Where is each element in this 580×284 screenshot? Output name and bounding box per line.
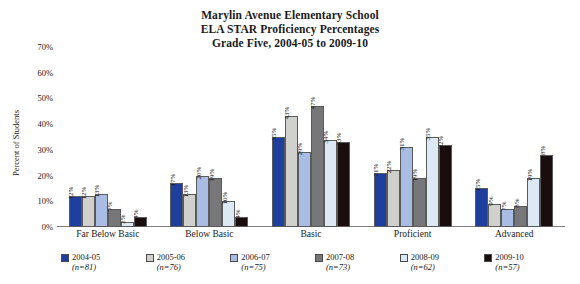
- legend-swatch-icon: [484, 254, 492, 262]
- x-axis-category-label: Basic: [260, 229, 362, 239]
- bar-slot: 13%: [95, 47, 108, 227]
- bar[interactable]: [426, 137, 439, 227]
- bar[interactable]: [527, 178, 540, 227]
- legend-series-name: 2006-07: [241, 252, 269, 262]
- bar-slot: 9%: [488, 47, 501, 227]
- bar-slot: 7%: [108, 47, 121, 227]
- y-axis-tick-label: 60%: [37, 68, 53, 78]
- bar[interactable]: [540, 155, 553, 227]
- bar[interactable]: [285, 116, 298, 227]
- bar-value-label: 22%: [385, 161, 393, 174]
- bar[interactable]: [514, 206, 527, 227]
- bar[interactable]: [374, 173, 387, 227]
- bar-slot: 35%: [272, 47, 285, 227]
- legend-series-count: (n=81): [72, 262, 100, 272]
- bar-slot: 8%: [514, 47, 527, 227]
- legend-swatch-icon: [400, 254, 408, 262]
- bar[interactable]: [69, 196, 82, 227]
- x-axis-category-label: Below Basic: [159, 229, 261, 239]
- bar-slot: 32%: [439, 47, 452, 227]
- y-axis-tick-label: 30%: [37, 145, 53, 155]
- bar[interactable]: [400, 147, 413, 227]
- legend-series-name: 2004-05: [72, 252, 100, 262]
- bar-slot: 12%: [82, 47, 95, 227]
- legend-series-count: (n=62): [411, 262, 439, 272]
- legend-label: 2006-07(n=75): [241, 252, 269, 272]
- x-axis-category-label: Far Below Basic: [57, 229, 159, 239]
- bar-value-label: 7%: [500, 201, 508, 210]
- legend-item[interactable]: 2005-06(n=76): [142, 252, 227, 272]
- bar-value-label: 35%: [270, 128, 278, 141]
- bar-value-label: 9%: [487, 196, 495, 205]
- legend-swatch-icon: [315, 254, 323, 262]
- y-axis-tick-label: 70%: [37, 42, 53, 52]
- bar-value-label: 8%: [513, 199, 521, 208]
- bar-value-label: 19%: [526, 169, 534, 182]
- bar-slot: 43%: [285, 47, 298, 227]
- legend-label: 2008-09(n=62): [411, 252, 439, 272]
- bar-value-label: 4%: [132, 209, 140, 218]
- legend-swatch-icon: [146, 254, 154, 262]
- legend-label: 2007-08(n=73): [326, 252, 354, 272]
- legend-item[interactable]: 2009-10(n=57): [480, 252, 565, 272]
- legend-series-name: 2008-09: [411, 252, 439, 262]
- bar-value-label: 19%: [411, 169, 419, 182]
- bar-value-label: 28%: [539, 146, 547, 159]
- bar[interactable]: [439, 145, 452, 227]
- bar-value-label: 32%: [437, 135, 445, 148]
- bar-slot: 28%: [540, 47, 553, 227]
- bar[interactable]: [196, 176, 209, 227]
- chart-legend: 2004-05(n=81)2005-06(n=76)2006-07(n=75)2…: [57, 252, 565, 272]
- legend-item[interactable]: 2004-05(n=81): [57, 252, 142, 272]
- bar-slot: 13%: [183, 47, 196, 227]
- bar-value-label: 47%: [309, 97, 317, 110]
- bar-groups: 12%12%13%7%2%4%17%13%20%19%10%4%35%43%29…: [57, 47, 565, 227]
- bar[interactable]: [298, 152, 311, 227]
- bar-slot: 33%: [337, 47, 350, 227]
- y-axis-tick-label: 0%: [42, 222, 53, 232]
- bar[interactable]: [183, 194, 196, 227]
- legend-series-count: (n=75): [241, 262, 269, 272]
- bar-slot: 2%: [121, 47, 134, 227]
- bar[interactable]: [475, 188, 488, 227]
- x-axis-category-label: Proficient: [362, 229, 464, 239]
- bar[interactable]: [82, 196, 95, 227]
- bar-value-label: 12%: [80, 187, 88, 200]
- bar[interactable]: [413, 178, 426, 227]
- bar-slot: 21%: [374, 47, 387, 227]
- bar-value-label: 31%: [398, 138, 406, 151]
- legend-series-name: 2005-06: [157, 252, 185, 262]
- bar-group: 15%9%7%8%19%28%: [463, 47, 565, 227]
- bar-value-label: 13%: [93, 184, 101, 197]
- legend-item[interactable]: 2007-08(n=73): [311, 252, 396, 272]
- legend-label: 2004-05(n=81): [72, 252, 100, 272]
- bar-value-label: 34%: [322, 130, 330, 143]
- bar[interactable]: [501, 209, 514, 227]
- chart-title-line-1: Marylin Avenue Elementary School: [0, 8, 580, 22]
- bar[interactable]: [387, 170, 400, 227]
- bar-value-label: 20%: [195, 166, 203, 179]
- bar[interactable]: [324, 140, 337, 227]
- y-axis-tick-label: 40%: [37, 119, 53, 129]
- bar-slot: 29%: [298, 47, 311, 227]
- legend-item[interactable]: 2006-07(n=75): [226, 252, 311, 272]
- legend-series-count: (n=57): [495, 262, 523, 272]
- bar-value-label: 21%: [372, 164, 380, 177]
- legend-item[interactable]: 2008-09(n=62): [396, 252, 481, 272]
- bar-group: 17%13%20%19%10%4%: [159, 47, 261, 227]
- bar-value-label: 12%: [67, 187, 75, 200]
- legend-series-count: (n=76): [157, 262, 185, 272]
- bar[interactable]: [337, 142, 350, 227]
- y-axis-title: Percent of Students: [11, 83, 21, 203]
- bar-value-label: 19%: [208, 169, 216, 182]
- bar-value-label: 4%: [234, 209, 242, 218]
- x-axis-category-label: Advanced: [463, 229, 565, 239]
- bar-slot: 17%: [170, 47, 183, 227]
- bar-value-label: 33%: [335, 133, 343, 146]
- bar-value-label: 29%: [296, 143, 304, 156]
- bar[interactable]: [272, 137, 285, 227]
- bar-value-label: 2%: [119, 214, 127, 223]
- bar[interactable]: [311, 106, 324, 227]
- legend-swatch-icon: [230, 254, 238, 262]
- y-axis-tick-label: 10%: [37, 196, 53, 206]
